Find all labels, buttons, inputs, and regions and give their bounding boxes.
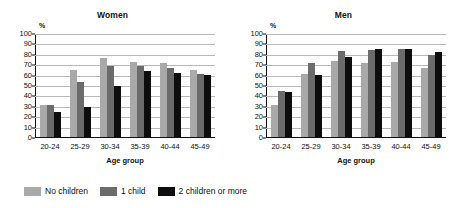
x-axis-line-women	[35, 137, 215, 138]
chart-title-women: Women	[5, 10, 220, 20]
x-tick-label: 40-44	[155, 142, 185, 151]
x-axis-title-women: Age group	[35, 156, 215, 165]
bar	[435, 52, 442, 137]
bar	[285, 92, 292, 137]
bar	[190, 70, 197, 137]
legend-item: 1 child	[100, 186, 146, 196]
bar	[331, 61, 338, 137]
legend-label: 2 children or more	[179, 186, 248, 196]
bar	[130, 62, 137, 137]
bar	[204, 75, 211, 137]
bar	[84, 107, 91, 137]
chart-page: Women % 1009080706050403020100 20-2425-2…	[0, 0, 456, 208]
legend-item: 2 children or more	[158, 186, 248, 196]
x-axis-labels-women: 20-2425-2930-3435-3940-4445-49	[35, 142, 215, 151]
bar	[54, 112, 61, 137]
bar	[107, 66, 114, 137]
y-tick-label: 20	[255, 113, 263, 121]
chart-title-men: Men	[236, 10, 451, 20]
y-axis-labels-men: 1009080706050403020100	[236, 34, 263, 138]
bar	[405, 49, 412, 137]
legend-swatch	[24, 187, 41, 196]
y-tick-label: 50	[24, 82, 32, 90]
y-axis-labels-women: 1009080706050403020100	[5, 34, 32, 138]
bar	[47, 105, 54, 137]
bar-group	[95, 33, 125, 137]
y-tick-label: 30	[255, 103, 263, 111]
x-axis-line-men	[266, 137, 446, 138]
legend-label: 1 child	[121, 186, 146, 196]
bar-groups-men	[266, 33, 446, 137]
bar	[301, 74, 308, 137]
y-tick-label: 80	[255, 51, 263, 59]
bar	[315, 75, 322, 137]
x-tick-label: 45-49	[416, 142, 446, 151]
x-axis-title-men: Age group	[266, 156, 446, 165]
legend-item: No children	[24, 186, 88, 196]
bar	[375, 49, 382, 137]
bar-groups-women	[35, 33, 215, 137]
chart-panel-women: Women % 1009080706050403020100 20-2425-2…	[5, 10, 220, 170]
bar	[137, 66, 144, 137]
bar-group	[266, 33, 296, 137]
x-tick-label: 20-24	[35, 142, 65, 151]
bar	[421, 68, 428, 137]
chart-panel-men: Men % 1009080706050403020100 20-2425-293…	[236, 10, 451, 170]
legend-label: No children	[45, 186, 88, 196]
bar	[40, 105, 47, 137]
y-tick-label: 80	[24, 51, 32, 59]
plot-area-men	[266, 34, 446, 138]
y-axis-unit-men: %	[270, 22, 276, 29]
bar	[391, 62, 398, 137]
x-tick-label: 20-24	[266, 142, 296, 151]
y-tick-label: 10	[255, 124, 263, 132]
y-tick-label: 60	[24, 72, 32, 80]
y-tick-label: 100	[250, 30, 263, 38]
bar	[428, 55, 435, 137]
y-tick-label: 70	[24, 61, 32, 69]
x-tick-label: 30-34	[95, 142, 125, 151]
bar-group	[326, 33, 356, 137]
bar	[160, 63, 167, 137]
bar	[308, 63, 315, 137]
y-tick-label: 100	[19, 30, 32, 38]
bar	[167, 68, 174, 137]
legend-swatch	[100, 187, 117, 196]
bar	[174, 73, 181, 137]
bar	[338, 51, 345, 137]
chart-legend: No children1 child2 children or more	[24, 186, 253, 196]
bar-group	[185, 33, 215, 137]
y-tick-label: 30	[24, 103, 32, 111]
bar	[361, 63, 368, 137]
bar	[345, 57, 352, 137]
x-axis-labels-men: 20-2425-2930-3435-3940-4445-49	[266, 142, 446, 151]
bar	[278, 91, 285, 137]
y-tick-label: 60	[255, 72, 263, 80]
y-tick-label: 70	[255, 61, 263, 69]
plot-area-women	[35, 34, 215, 138]
legend-swatch	[158, 187, 175, 196]
bar	[398, 49, 405, 137]
bar-group	[386, 33, 416, 137]
x-tick-label: 25-29	[65, 142, 95, 151]
y-tick-label: 10	[24, 124, 32, 132]
x-tick-label: 45-49	[185, 142, 215, 151]
bar	[114, 86, 121, 137]
bar-group	[296, 33, 326, 137]
bar	[271, 105, 278, 137]
y-tick-label: 90	[24, 41, 32, 49]
bar-group	[356, 33, 386, 137]
bar	[100, 58, 107, 137]
x-tick-label: 40-44	[386, 142, 416, 151]
y-tick-label: 40	[24, 93, 32, 101]
bar	[144, 71, 151, 137]
bar-group	[125, 33, 155, 137]
bar-group	[416, 33, 446, 137]
bar-group	[65, 33, 95, 137]
y-tick-label: 90	[255, 41, 263, 49]
y-tick-label: 20	[24, 113, 32, 121]
y-tick-label: 50	[255, 82, 263, 90]
bar	[77, 82, 84, 137]
bar	[197, 74, 204, 137]
x-tick-label: 35-39	[125, 142, 155, 151]
